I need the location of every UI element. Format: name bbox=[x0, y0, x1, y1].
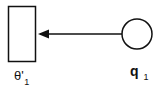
q-node-label: q 1 bbox=[130, 63, 148, 82]
diagram-canvas: θ' 1 q 1 bbox=[0, 0, 158, 92]
arrowhead-icon bbox=[38, 30, 49, 39]
q-node-circle bbox=[122, 19, 152, 49]
theta-node-rectangle bbox=[9, 7, 36, 62]
theta-node-label: θ' 1 bbox=[14, 68, 29, 87]
